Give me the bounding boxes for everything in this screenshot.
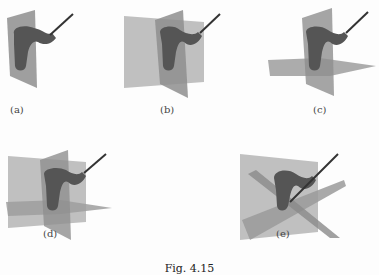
rod	[346, 12, 368, 33]
label-e: (e)	[276, 228, 290, 239]
figure-c-render	[250, 0, 379, 120]
rod	[50, 14, 73, 35]
label-c: (c)	[313, 104, 326, 115]
figure-b-render	[120, 0, 250, 120]
panel-d: (d)	[0, 130, 160, 240]
panel-b: (b)	[120, 0, 250, 120]
label-b: (b)	[160, 104, 174, 115]
panel-e: (e)	[220, 130, 379, 240]
figure-e-render	[220, 130, 379, 240]
figure-d-render	[0, 130, 160, 240]
rod	[84, 154, 106, 173]
figure-caption: Fig. 4.15	[0, 262, 379, 275]
figure-a-render	[0, 0, 120, 120]
panel-a: (a)	[0, 0, 120, 120]
panel-c: (c)	[250, 0, 379, 120]
label-a: (a)	[10, 104, 24, 115]
label-d: (d)	[43, 228, 57, 239]
